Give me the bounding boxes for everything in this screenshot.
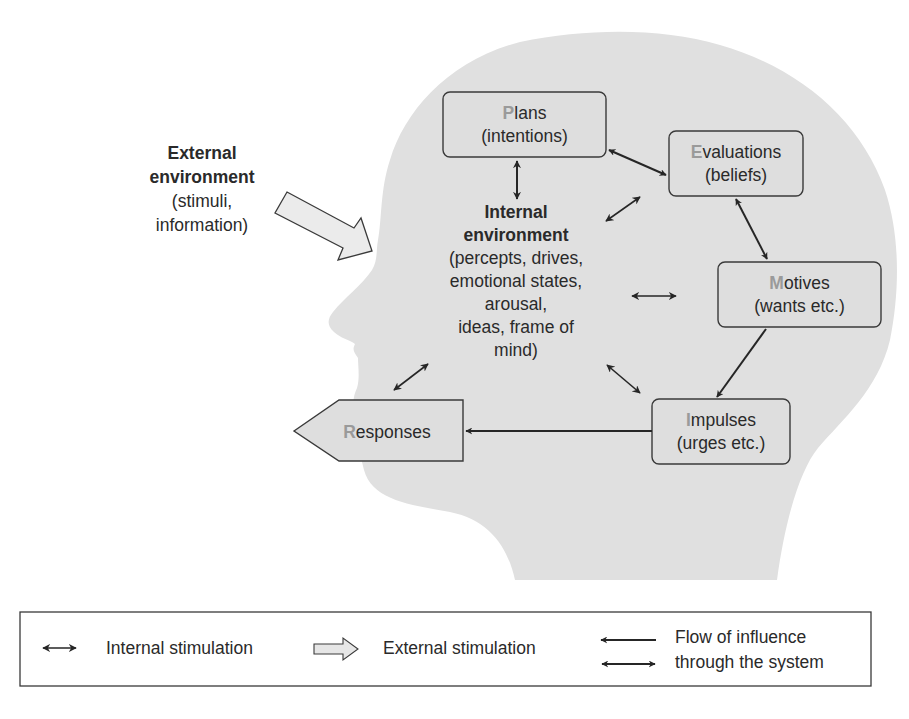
legend: Internal stimulation External stimulatio… <box>20 612 871 686</box>
internal-title-2: environment <box>463 225 568 245</box>
prime-theory-diagram: External environment (stimuli, informati… <box>0 0 909 719</box>
svg-text:Motives: Motives <box>769 273 830 293</box>
motives-node: Motives (wants etc.) <box>718 262 881 327</box>
legend-flow-line-2: through the system <box>675 652 824 672</box>
evaluations-node: Evaluations (beliefs) <box>669 131 803 196</box>
motives-initial: M <box>769 273 784 293</box>
svg-text:Responses: Responses <box>343 422 431 442</box>
plans-node: Plans (intentions) <box>443 92 606 157</box>
plans-initial: P <box>503 103 515 123</box>
impulses-sub: (urges etc.) <box>677 433 766 453</box>
legend-internal-label: Internal stimulation <box>106 638 253 658</box>
evaluations-sub: (beliefs) <box>705 165 767 185</box>
svg-text:Plans: Plans <box>503 103 547 123</box>
motives-label: otives <box>784 273 830 293</box>
plans-sub: (intentions) <box>481 126 568 146</box>
external-sub-2: information) <box>156 215 248 235</box>
internal-line-5: mind) <box>494 340 538 360</box>
internal-line-1: (percepts, drives, <box>449 248 583 268</box>
legend-flow-line-1: Flow of influence <box>675 627 806 647</box>
internal-line-4: ideas, frame of <box>458 317 574 337</box>
impulses-label: mpulses <box>691 410 756 430</box>
external-stimulation-arrow-icon <box>275 192 372 260</box>
responses-node: Responses <box>294 400 463 461</box>
plans-label: lans <box>514 103 546 123</box>
svg-text:Impulses: Impulses <box>686 410 756 430</box>
impulses-node: Impulses (urges etc.) <box>652 399 790 464</box>
external-environment-label: External environment (stimuli, informati… <box>149 143 254 235</box>
external-title-1: External <box>167 143 236 163</box>
internal-line-3: arousal, <box>485 294 547 314</box>
evaluations-label: valuations <box>702 142 781 162</box>
internal-environment-label: Internal environment (percepts, drives, … <box>449 202 583 360</box>
external-sub-1: (stimuli, <box>172 191 232 211</box>
responses-initial: R <box>343 422 356 442</box>
svg-text:Evaluations: Evaluations <box>691 142 782 162</box>
external-title-2: environment <box>149 167 254 187</box>
internal-line-2: emotional states, <box>450 271 582 291</box>
motives-sub: (wants etc.) <box>754 296 844 316</box>
evaluations-initial: E <box>691 142 703 162</box>
internal-title-1: Internal <box>484 202 547 222</box>
legend-external-label: External stimulation <box>383 638 536 658</box>
responses-label: esponses <box>356 422 431 442</box>
